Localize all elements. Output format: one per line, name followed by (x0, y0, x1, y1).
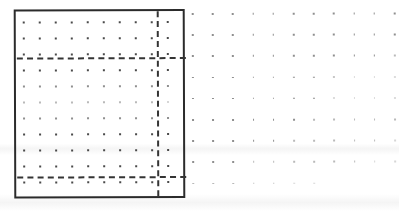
grid-dot (273, 55, 275, 57)
grid-dot (192, 119, 194, 121)
grid-dot (232, 119, 234, 121)
grid-dot (192, 13, 194, 15)
grid-dot (253, 76, 255, 78)
grid-dot (273, 76, 275, 78)
grid-dot (192, 34, 194, 36)
grid-dot (394, 161, 396, 163)
grid-dot (253, 161, 255, 163)
grid-dot (313, 182, 315, 184)
grid-dot (232, 140, 234, 142)
grid-dot (374, 76, 376, 78)
grid-dot (212, 77, 214, 79)
grid-dot (273, 98, 275, 100)
grid-dot (333, 13, 335, 15)
grid-dot (293, 76, 295, 78)
grid-dot (313, 34, 315, 36)
grid-dot (354, 97, 356, 99)
grid-dot (293, 182, 295, 184)
grid-dot (354, 161, 356, 163)
grid-dot (394, 140, 396, 142)
grid-dot (374, 140, 376, 142)
grid-dot (354, 76, 356, 78)
grid-dot (233, 161, 235, 163)
grid-dot (293, 140, 295, 142)
grid-dot (192, 183, 194, 185)
grid-dot (313, 97, 315, 99)
grid-dot (293, 97, 295, 99)
grid-dot (293, 161, 295, 163)
grid-dot (313, 13, 315, 15)
grid-dot (374, 34, 376, 36)
grid-dot (212, 140, 214, 142)
grid-dot (333, 34, 335, 36)
grid-dot (212, 55, 214, 57)
grid-dot (374, 118, 376, 120)
grid-dot (374, 97, 376, 99)
grid-dot (394, 97, 396, 99)
diagram-canvas (0, 0, 399, 211)
grid-dot (212, 161, 214, 163)
grid-dot (212, 119, 214, 121)
solid-rectangle-frame (14, 9, 186, 199)
grid-dot (232, 76, 234, 78)
grid-dot (232, 55, 234, 57)
grid-dot (252, 13, 254, 15)
grid-dot (273, 182, 275, 184)
grid-dot (232, 34, 234, 36)
grid-dot (333, 140, 335, 142)
grid-dot (293, 13, 295, 15)
grid-dot (232, 13, 234, 15)
grid-dot (354, 140, 356, 142)
grid-dot (273, 119, 275, 121)
grid-dot (192, 140, 194, 142)
grid-dot (253, 98, 255, 100)
grid-dot (212, 98, 214, 100)
grid-dot (273, 140, 275, 142)
grid-dot (293, 55, 295, 57)
grid-dot (192, 55, 194, 57)
grid-dot (192, 77, 194, 79)
grid-dot (313, 161, 315, 163)
grid-dot (212, 183, 214, 185)
grid-dot (313, 76, 315, 78)
grid-dot (334, 161, 336, 163)
grid-dot (374, 12, 376, 14)
grid-dot (333, 55, 335, 57)
grid-dot (253, 140, 255, 142)
grid-dot (252, 34, 254, 36)
grid-dot (394, 118, 396, 120)
grid-dot (394, 55, 396, 57)
grid-dot (354, 119, 356, 121)
grid-dot (333, 76, 335, 78)
grid-dot (192, 161, 194, 163)
grid-dot (273, 161, 275, 163)
scan-skew-wrapper (0, 0, 399, 211)
grid-dot (353, 55, 355, 57)
grid-dot (353, 34, 355, 36)
grid-dot (273, 34, 275, 36)
grid-dot (232, 98, 234, 100)
grid-dot (333, 97, 335, 99)
grid-dot (252, 55, 254, 57)
grid-dot (313, 55, 315, 57)
grid-dot (353, 13, 355, 15)
grid-dot (333, 119, 335, 121)
grid-dot (394, 34, 396, 36)
grid-dot (273, 13, 275, 15)
grid-dot (313, 119, 315, 121)
grid-dot (212, 34, 214, 36)
grid-dot (253, 182, 255, 184)
grid-dot (253, 119, 255, 121)
grid-dot (374, 55, 376, 57)
grid-dot (394, 76, 396, 78)
grid-dot (293, 34, 295, 36)
grid-dot (374, 161, 376, 163)
grid-dot (313, 140, 315, 142)
grid-dot (394, 12, 396, 14)
grid-dot (192, 98, 194, 100)
grid-dot (233, 182, 235, 184)
grid-dot (212, 13, 214, 15)
grid-dot (293, 119, 295, 121)
